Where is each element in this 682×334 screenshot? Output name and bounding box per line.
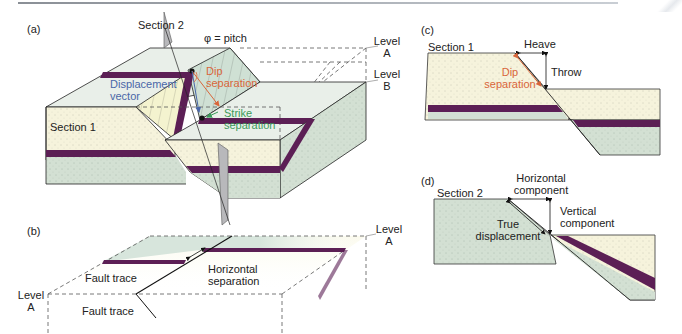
level-letter: A: [16, 301, 46, 313]
vertical-word: Vertical: [560, 205, 614, 217]
dip-word: Dip: [206, 65, 257, 77]
panel-d-section: [434, 199, 655, 300]
throw-label: Throw: [551, 66, 582, 78]
component-word: component: [506, 184, 576, 196]
panel-a-tag: (a): [27, 23, 40, 35]
displacement-vector-label: Displacement vector: [110, 78, 177, 102]
true-word: True: [472, 218, 544, 230]
pitch-label: φ = pitch: [204, 32, 247, 44]
strike-separation-label: Strike separation: [224, 107, 275, 131]
level-a-label: Level A: [372, 35, 402, 59]
heave-label: Heave: [524, 38, 556, 50]
panel-b-tag: (b): [27, 225, 40, 237]
dip-separation-label: Dip separation: [206, 65, 257, 89]
level-b-letter: B: [372, 80, 402, 92]
separation-word: separation: [208, 275, 259, 287]
level-a-word: Level: [372, 35, 402, 47]
strike-separation-word: separation: [224, 119, 275, 131]
fault-trace-upper-label: Fault trace: [85, 272, 137, 284]
horizontal-separation-label: Horizontal separation: [208, 263, 259, 287]
dip-separation-c-label: Dip separation: [480, 66, 540, 90]
strike-word: Strike: [224, 107, 275, 119]
level-letter: A: [374, 235, 404, 247]
panel-d-tag: (d): [421, 175, 434, 187]
panel-c-tag: (c): [421, 24, 434, 36]
level-b-word: Level: [372, 68, 402, 80]
component-word: component: [560, 217, 614, 229]
displacement-word: Displacement: [110, 78, 177, 90]
level-b-label: Level B: [372, 68, 402, 92]
level-a-letter: A: [372, 47, 402, 59]
vertical-component-label: Vertical component: [560, 205, 614, 229]
section-2-label: Section 2: [138, 19, 184, 31]
panel-c-section: [425, 53, 660, 155]
dip-word: Dip: [480, 66, 540, 78]
level-word: Level: [374, 223, 404, 235]
true-displacement-label: True displacement: [472, 218, 544, 242]
section-2-d-label: Section 2: [437, 187, 483, 199]
level-a-left-label: Level A: [16, 289, 46, 313]
displacement-word: displacement: [472, 230, 544, 242]
level-word: Level: [16, 289, 46, 301]
section-1-label: Section 1: [50, 121, 96, 133]
section-1-c-label: Section 1: [428, 41, 474, 53]
panel-b-block: [48, 236, 366, 334]
separation-word: separation: [206, 77, 257, 89]
horizontal-word: Horizontal: [506, 172, 576, 184]
vector-word: vector: [110, 90, 177, 102]
fault-trace-lower-label: Fault trace: [82, 305, 134, 317]
separation-word: separation: [480, 78, 540, 90]
horizontal-component-label: Horizontal component: [506, 172, 576, 196]
horizontal-word: Horizontal: [208, 263, 259, 275]
level-a-right-label: Level A: [374, 223, 404, 247]
